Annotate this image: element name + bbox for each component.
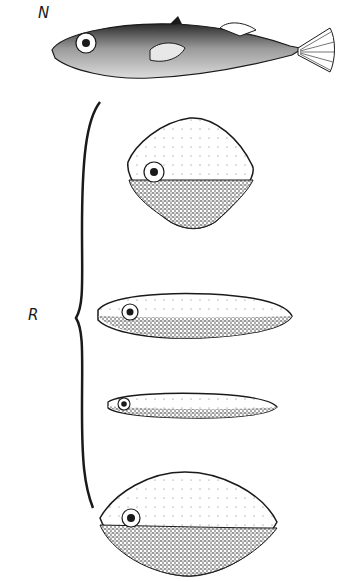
- model-r4: [100, 472, 277, 576]
- model-r1: [128, 118, 253, 229]
- model-r3: [108, 393, 277, 418]
- diagram-canvas: [0, 0, 337, 582]
- model-r2: [98, 294, 292, 339]
- fish-n: [52, 16, 335, 78]
- brace: [76, 102, 100, 508]
